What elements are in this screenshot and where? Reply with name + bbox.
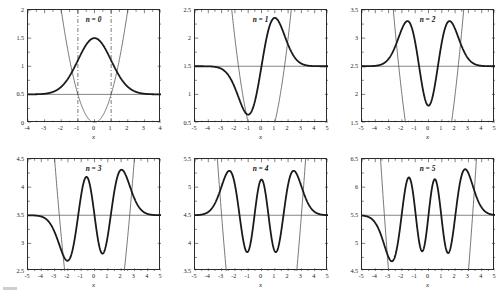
panel-n0: 00.511.52-4-3-2-101234xn = 0 [0,0,167,149]
panel-n1-ytick-label: 1 [167,90,191,97]
panel-n5-xtick-label: -2 [398,272,403,279]
panel-n3-ytick-label: 3 [0,238,24,245]
panel-n5-ytick-label: 5.5 [334,210,358,217]
panel-n5-ytick-label: 6.5 [334,154,358,161]
panel-n4-xtick-label: -5 [191,272,196,279]
scan-artifact [3,287,17,290]
panel-n5-xaxis-title: x [426,281,429,289]
panel-n1-label: n = 1 [253,15,269,24]
panel-n5-xtick-label: 2 [453,272,456,279]
panel-n1: 0.511.522.5-5-4-3-2-1012345xn = 1 [167,0,334,149]
panel-n1-ytick-label: 2 [167,34,191,41]
panel-n4-xaxis-title: x [259,281,262,289]
panel-n4-ytick-label: 3.5 [167,267,191,274]
panel-n2-ytick-label: 1.5 [334,118,358,125]
panel-n4-ytick-label: 4.5 [167,210,191,217]
panel-n3-ytick-label: 2.5 [0,267,24,274]
panel-n2-xtick-label: -2 [398,124,403,131]
panel-n2-label: n = 2 [420,15,436,24]
panel-n0-xtick-label: 1 [109,124,112,131]
panel-n2-xtick-label: -1 [412,124,417,131]
panel-n5-ytick-label: 6 [334,182,358,189]
panel-n2-xtick-label: 4 [479,124,482,131]
panel-n4-label: n = 4 [253,164,269,173]
panel-n2-xtick-label: 0 [426,124,429,131]
panel-n2-wavefunction-curve [362,21,495,106]
panel-n3: 2.533.544.5-5-4-3-2-1012345xn = 3 [0,149,167,297]
panel-n5: 4.555.566.5-5-4-3-2-1012345xn = 5 [334,149,501,297]
panel-n4-ytick-label: 4 [167,238,191,245]
panel-n5-xtick-label: 4 [479,272,482,279]
panel-n3-xtick-label: -3 [51,272,56,279]
panel-n4-xtick-label: -1 [245,272,250,279]
panel-n2-curves [362,10,495,123]
panel-n0-ytick-label: 0.5 [0,90,24,97]
panel-n1-xtick-label: 3 [299,124,302,131]
panel-n5-ytick-label: 4.5 [334,267,358,274]
panel-n1-wavefunction-curve [195,18,328,115]
oscillator-figure: 00.511.52-4-3-2-101234xn = 00.511.522.5-… [0,0,501,297]
panel-n1-xtick-label: -3 [218,124,223,131]
panel-n0-xtick-label: 3 [142,124,145,131]
panel-n5-label: n = 5 [420,164,436,173]
panel-n3-ytick-label: 3.5 [0,210,24,217]
panel-n2-ytick-label: 3.5 [334,6,358,13]
panel-n3-ytick-label: 4 [0,182,24,189]
panel-n2-xaxis-title: x [426,133,429,141]
panel-n1-xtick-label: 4 [312,124,315,131]
panel-n0-xtick-label: -1 [74,124,79,131]
panel-n1-ytick-label: 0.5 [167,118,191,125]
panel-n3-curves [28,159,161,272]
panel-n0-ytick-label: 0 [0,118,24,125]
panel-n0-ytick-label: 2 [0,6,24,13]
panel-n3-xtick-label: 2 [119,272,122,279]
panel-n2-xtick-label: 1 [439,124,442,131]
panel-n0-xtick-label: -2 [58,124,63,131]
panel-n2-xtick-label: 3 [466,124,469,131]
panel-n4-wavefunction-curve [195,170,328,251]
panel-n5-xtick-label: -1 [412,272,417,279]
panel-n1-ytick-label: 1.5 [167,62,191,69]
panel-n3-xtick-label: -2 [64,272,69,279]
panel-n1-xtick-label: -4 [205,124,210,131]
panel-n4-xtick-label: 2 [286,272,289,279]
panel-n1-plot-area [194,9,327,122]
panel-n3-xtick-label: 0 [92,272,95,279]
panel-n0-wavefunction-curve [28,38,161,94]
panel-n5-xtick-label: -4 [372,272,377,279]
panel-n4-xtick-label: -3 [218,272,223,279]
panel-n0-xtick-label: 2 [125,124,128,131]
panel-n4-ytick-label: 5.5 [167,154,191,161]
panel-n5-xtick-label: -5 [358,272,363,279]
panel-n2: 1.522.533.5-5-4-3-2-1012345xn = 2 [334,0,501,149]
panel-n5-xtick-label: -3 [385,272,390,279]
panel-n3-xtick-label: 1 [105,272,108,279]
panel-n4-curves [195,159,328,272]
panel-n0-curves [28,10,161,123]
panel-n0-ytick-label: 1.5 [0,34,24,41]
panel-n5-xtick-label: 5 [492,272,495,279]
panel-n3-xtick-label: 4 [145,272,148,279]
panel-n2-ytick-label: 2 [334,90,358,97]
panel-n2-ytick-label: 2.5 [334,62,358,69]
panel-n4-xtick-label: 1 [272,272,275,279]
panel-n3-ytick-label: 4.5 [0,154,24,161]
panel-n5-curves [362,159,495,272]
panel-n1-xtick-label: 0 [259,124,262,131]
panel-n3-xtick-label: -4 [38,272,43,279]
panel-n2-ytick-label: 3 [334,34,358,41]
panel-n1-curves [195,10,328,123]
panel-n2-xtick-label: 2 [453,124,456,131]
panel-n4-xtick-label: 5 [325,272,328,279]
panel-n3-xaxis-title: x [92,281,95,289]
panel-n0-ytick-label: 1 [0,62,24,69]
panel-n1-xtick-label: 1 [272,124,275,131]
panel-n5-ytick-label: 5 [334,238,358,245]
panel-n5-xtick-label: 1 [439,272,442,279]
panel-n3-xtick-label: -1 [78,272,83,279]
panel-n4-xtick-label: -2 [231,272,236,279]
panel-n0-plot-area [27,9,160,122]
panel-n2-xtick-label: -3 [385,124,390,131]
panel-n1-xtick-label: -1 [245,124,250,131]
panel-n4: 3.544.555.5-5-4-3-2-1012345xn = 4 [167,149,334,297]
